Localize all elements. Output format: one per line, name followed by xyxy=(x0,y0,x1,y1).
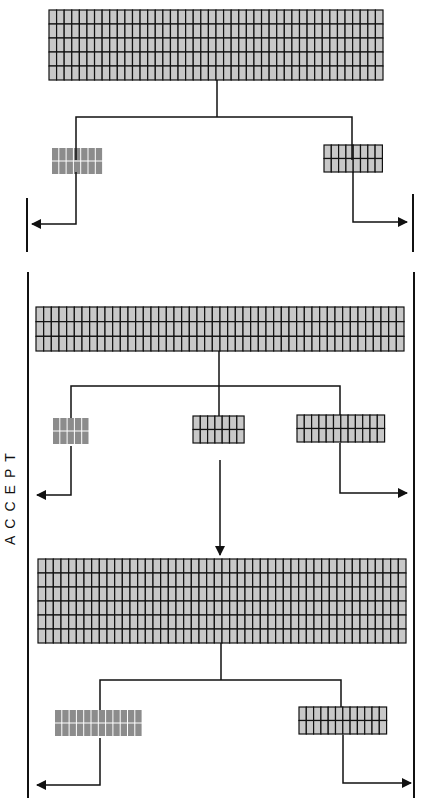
stage-2-connectors xyxy=(37,351,407,555)
grid-blocks xyxy=(36,10,406,736)
flow-diagram xyxy=(0,0,423,798)
stage-2-accepted-block-center xyxy=(193,416,244,443)
stage-2-accepted-block-right xyxy=(297,415,385,442)
stage-1-rejected-block xyxy=(52,148,102,174)
stage-3-main-block xyxy=(38,559,406,643)
stage-1-accepted-block-right xyxy=(324,145,382,172)
accept-label: ACCEPT xyxy=(2,446,18,545)
stage-2-rejected-block xyxy=(53,418,89,444)
stage-3-accepted-block-right xyxy=(299,707,387,734)
stage-1-boundaries xyxy=(27,194,413,252)
stage-1-main-block xyxy=(49,10,383,80)
stage-2-main-block xyxy=(36,307,404,351)
stage-3-rejected-block xyxy=(55,710,142,736)
